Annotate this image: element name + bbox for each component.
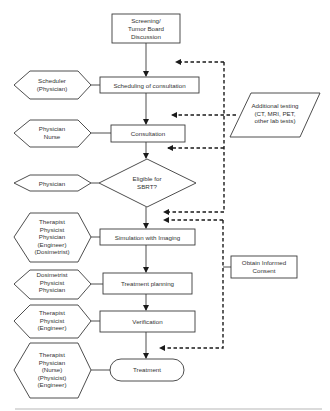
role-simulation-line2: Physicist [40,226,65,233]
role-eligible: Physician [14,175,91,191]
role-scheduling-line2: (Physician) [37,85,68,92]
step-simulation-label: Simulation with Imaging [115,234,181,241]
input-additional-testing: Additional testing (CT, MRI, PET, other … [230,93,320,137]
additional-testing-line1: Additional testing [251,102,299,109]
role-simulation-line3: Physician [39,233,66,240]
decision-eligible-line2: SBRT? [137,183,157,190]
step-simulation: Simulation with Imaging [100,229,195,245]
informed-consent-line2: Consent [252,267,275,274]
step-verification: Verification [100,311,195,332]
role-consultation: Physician Nurse [14,120,91,147]
informed-consent-line1: Obtain Informed [242,259,287,266]
role-treatment-line1: Therapist [39,351,65,358]
role-consultation-line1: Physician [39,125,66,132]
role-eligible-line1: Physician [39,180,66,187]
step-scheduling: Scheduling of consultation [100,77,199,93]
step-consultation-label: Consultation [131,130,166,137]
step-screening-line2: Tumor Board [128,25,164,32]
role-verification-line2: Physicist [40,317,65,324]
role-scheduling-line1: Scheduler [38,77,66,84]
dashed-feedback-lines [160,62,236,348]
flowchart: Screening/ Tumor Board Discussion Schedu… [0,0,330,411]
role-simulation-line4: (Engineer) [38,241,67,248]
additional-testing-line3: other lab tests) [255,117,296,124]
role-planning-line1: Dosimetrist [37,271,68,278]
role-planning: Dosimetrist Physicist Physician [14,270,91,299]
role-scheduling: Scheduler (Physician) [14,71,91,99]
role-planning-line3: Physician [39,286,66,293]
role-verification: Therapist Physicist (Engineer) [14,305,91,338]
decision-eligible-line1: Eligible for [133,175,162,182]
step-screening-line1: Screening/ [131,17,161,24]
role-consultation-line2: Nurse [44,133,61,140]
role-treatment: Therapist Physician (Nurse) (Physicist) … [14,343,91,398]
role-treatment-line3: (Nurse) [42,366,63,373]
step-informed-consent: Obtain Informed Consent [231,256,297,278]
role-treatment-line2: Physician [39,359,66,366]
role-simulation-line1: Therapist [39,218,65,225]
role-planning-line2: Physicist [40,279,65,286]
decision-eligible: Eligible for SBRT? [99,159,196,207]
step-treatment-label: Treatment [133,366,161,373]
step-verification-label: Verification [132,318,163,325]
role-simulation-line5: (Dosimetrist) [34,248,69,255]
role-verification-line1: Therapist [39,309,65,316]
step-planning-label: Treatment planning [121,280,175,287]
role-verification-line3: (Engineer) [38,324,67,331]
additional-testing-line2: (CT, MRI, PET, [255,110,296,117]
step-scheduling-label: Scheduling of consultation [113,82,186,89]
role-simulation: Therapist Physicist Physician (Engineer)… [14,213,91,262]
step-treatment: Treatment [110,359,184,381]
step-consultation: Consultation [111,125,185,142]
step-planning: Treatment planning [103,273,192,294]
step-screening-line3: Discussion [131,33,161,40]
step-screening: Screening/ Tumor Board Discussion [112,14,180,43]
role-treatment-line5: (Engineer) [38,381,67,388]
role-treatment-line4: (Physicist) [38,374,67,381]
